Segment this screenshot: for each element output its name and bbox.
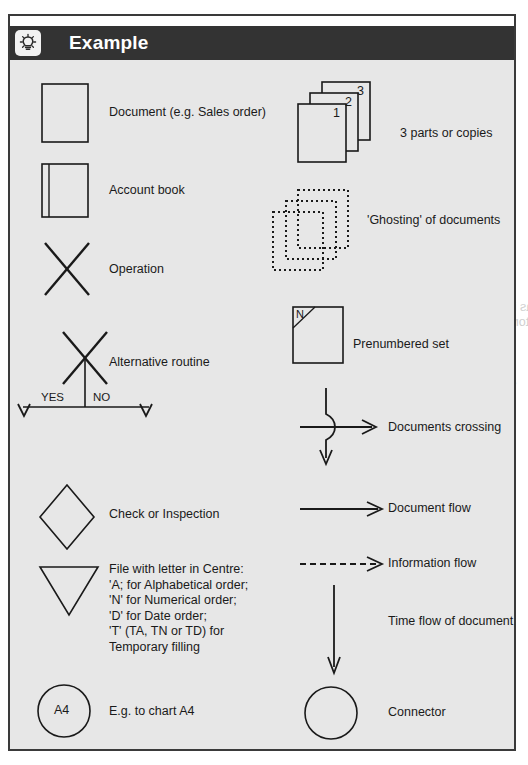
- information-flow-symbol: [300, 555, 390, 573]
- copy-number-2: 2: [345, 95, 352, 109]
- document-flow-label: Document flow: [388, 501, 471, 517]
- connector-symbol: [303, 685, 359, 741]
- connector-label: Connector: [388, 705, 446, 721]
- alternative-routine-label: Alternative routine: [109, 355, 210, 371]
- branch-label-yes: YES: [41, 391, 64, 403]
- document-flow-symbol: [300, 500, 390, 518]
- lightbulb-icon: [15, 30, 41, 56]
- information-flow-label: Information flow: [388, 556, 476, 572]
- operation-label: Operation: [109, 262, 164, 278]
- example-header-bar: Example: [10, 26, 514, 60]
- time-flow-symbol: [324, 585, 344, 681]
- connector-a4-inner-text: A4: [54, 703, 69, 717]
- prenumbered-set-label: Prenumbered set: [353, 337, 449, 353]
- branch-label-no: NO: [93, 391, 110, 403]
- documents-crossing-symbol: [300, 388, 400, 470]
- check-inspection-label: Check or Inspection: [109, 507, 219, 523]
- account-book-symbol: [41, 163, 89, 218]
- copy-number-1: 1: [333, 106, 340, 120]
- ghosting-documents-symbol: [272, 188, 356, 268]
- file-triangle-symbol: [38, 565, 100, 617]
- document-rectangle-symbol: [41, 83, 89, 143]
- file-label: File with letter in Centre: 'A; for Alph…: [109, 562, 248, 655]
- ghosting-label: 'Ghosting' of documents: [367, 213, 500, 229]
- time-flow-label: Time flow of document: [388, 614, 513, 630]
- parts-copies-label: 3 parts or copies: [400, 126, 492, 142]
- prenumbered-set-inner-text: N: [296, 308, 304, 320]
- operation-cross-symbol: [42, 240, 92, 298]
- page-title: Example: [69, 32, 149, 54]
- account-book-label: Account book: [109, 183, 185, 199]
- copy-number-3: 3: [357, 84, 364, 98]
- document-label: Document (e.g. Sales order): [109, 105, 266, 121]
- connector-a4-label: E.g. to chart A4: [109, 704, 194, 720]
- documents-crossing-label: Documents crossing: [388, 420, 501, 436]
- alternative-routine-symbol: [15, 330, 160, 422]
- check-diamond-symbol: [38, 483, 96, 551]
